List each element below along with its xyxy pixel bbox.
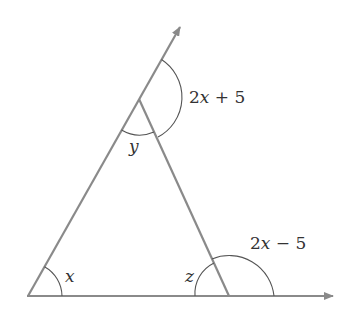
label-x: x — [65, 266, 75, 286]
angle-exterior-bottom-arc — [212, 256, 274, 296]
label-y: y — [128, 136, 139, 156]
left-side-ray — [28, 27, 180, 296]
triangle-diagram: x y z 2x + 5 2x − 5 — [0, 0, 350, 315]
angle-exterior-top-arc — [158, 60, 182, 138]
label-z: z — [184, 266, 195, 286]
label-exterior-top: 2x + 5 — [189, 87, 245, 107]
label-exterior-bottom: 2x − 5 — [250, 233, 306, 253]
right-side — [139, 99, 229, 296]
angle-x-arc — [45, 267, 63, 296]
angle-z-arc — [195, 263, 214, 296]
angle-y-arc — [122, 130, 155, 135]
